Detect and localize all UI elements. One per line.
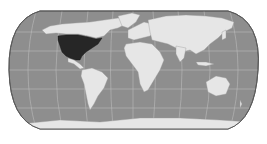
japan [222, 30, 226, 40]
world-map [0, 0, 267, 144]
